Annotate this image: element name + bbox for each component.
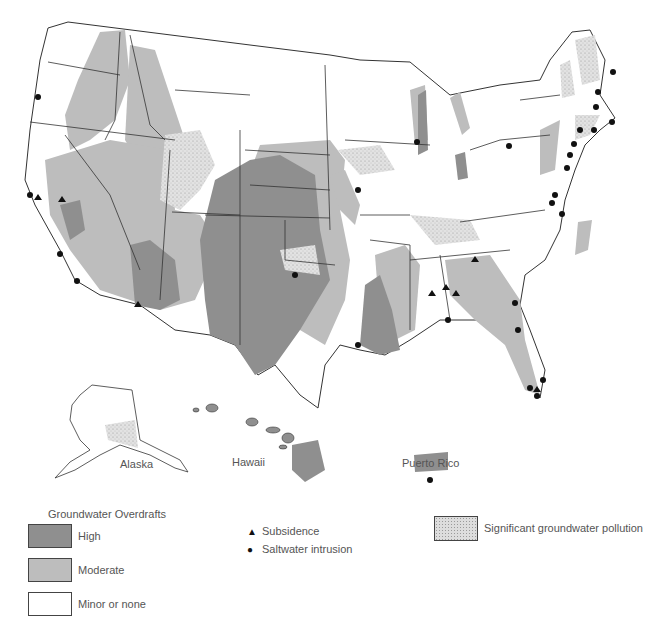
legend-moderate: Moderate bbox=[78, 564, 124, 576]
dot-icon: ● bbox=[247, 544, 253, 555]
groundwater-map bbox=[0, 0, 657, 500]
hawaii-label: Hawaii bbox=[232, 456, 265, 468]
swatch-minor bbox=[28, 592, 72, 616]
puerto-rico-label: Puerto Rico bbox=[402, 457, 459, 469]
alaska-label: Alaska bbox=[120, 458, 153, 470]
swatch-moderate bbox=[28, 558, 72, 582]
legend-overdrafts-title: Groundwater Overdrafts bbox=[48, 508, 166, 520]
legend-minor: Minor or none bbox=[78, 598, 146, 610]
triangle-icon: ▲ bbox=[247, 526, 257, 537]
swatch-high bbox=[28, 524, 72, 548]
swatch-pollution bbox=[434, 516, 478, 541]
legend-pollution: Significant groundwater pollution bbox=[484, 522, 643, 534]
legend-saltwater: Saltwater intrusion bbox=[262, 543, 353, 555]
hawaii-islands bbox=[193, 404, 294, 449]
legend-subsidence: Subsidence bbox=[262, 525, 320, 537]
legend-high: High bbox=[78, 530, 101, 542]
